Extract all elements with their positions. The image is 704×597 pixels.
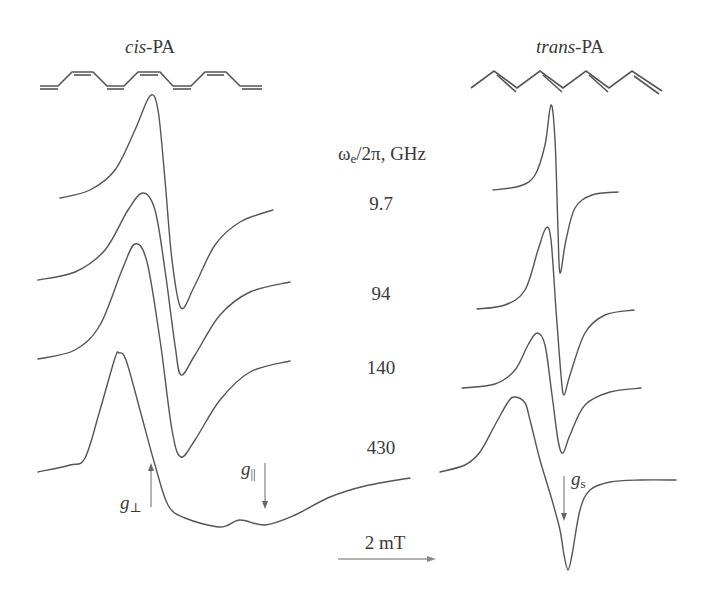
cis-pa-430-ghz-spectrum (38, 352, 410, 527)
freq-label-140: 140 (367, 357, 396, 379)
g-parallel-arrow (262, 463, 268, 509)
epr-spectra-figure (0, 0, 704, 597)
cis-pa-140-ghz-spectrum (38, 244, 290, 457)
freq-label-430: 430 (367, 437, 396, 459)
trans-pa-9-7-ghz-spectrum (493, 105, 618, 273)
trans-pa-430-ghz-spectrum (440, 397, 676, 570)
frequency-axis-label: ωe/2π, GHz (338, 143, 426, 167)
g-perp-arrow (148, 463, 154, 507)
freq-label-94: 94 (372, 283, 391, 305)
scale-bar-label: 2 mT (365, 532, 406, 554)
g-perp-label: g⊥ (120, 492, 142, 516)
trans-pa-94-ghz-spectrum (477, 227, 634, 395)
freq-label-9-7: 9.7 (369, 193, 393, 215)
scale-bar-arrow (338, 556, 436, 562)
trans-pa-chain-structure (471, 71, 662, 94)
cis-pa-title: cis-PA (125, 36, 175, 58)
g-s-label: gs (571, 468, 586, 492)
g-s-arrow (561, 476, 567, 521)
cis-pa-94-ghz-spectrum (38, 193, 290, 375)
trans-pa-140-ghz-spectrum (462, 333, 641, 453)
cis-pa-chain-structure (40, 72, 262, 89)
g-parallel-label: g|| (241, 458, 256, 482)
trans-pa-title: trans-PA (536, 36, 604, 58)
